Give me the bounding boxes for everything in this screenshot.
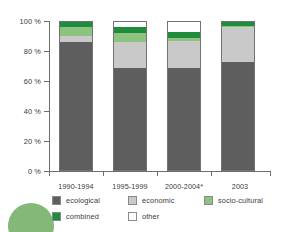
legend-swatch-socio-cultural bbox=[204, 196, 213, 205]
legend-swatch-ecological bbox=[52, 196, 61, 205]
legend-label-other: other bbox=[142, 212, 159, 221]
legend-label-ecological: ecological bbox=[66, 196, 100, 205]
plot-area: 100 % 80 % 60 % 40 % 20 % 0 % bbox=[0, 12, 281, 180]
legend-label-combined: combined bbox=[66, 212, 99, 221]
chart-legend: ecological economic socio-cultural combi… bbox=[52, 196, 280, 226]
x-tick-mark-2 bbox=[157, 172, 158, 176]
legend-item-socio-cultural[interactable]: socio-cultural bbox=[204, 196, 263, 205]
x-tick-mark-4 bbox=[270, 172, 271, 176]
x-tick-mark-0 bbox=[49, 172, 50, 176]
legend-item-combined[interactable]: combined bbox=[52, 212, 99, 221]
legend-item-economic[interactable]: economic bbox=[128, 196, 174, 205]
legend-item-other[interactable]: other bbox=[128, 212, 159, 221]
bar-segment-ecological bbox=[167, 68, 201, 172]
x-axis-label-1: 1995-1999 bbox=[112, 182, 147, 191]
bar-1990-1994[interactable] bbox=[59, 21, 93, 171]
legend-swatch-combined bbox=[52, 212, 61, 221]
bar-segment-ecological bbox=[221, 62, 255, 172]
bar-segment-economic bbox=[221, 27, 255, 62]
bar-segment-other bbox=[167, 21, 201, 32]
stacked-bar-chart-figure: 100 % 80 % 60 % 40 % 20 % 0 % bbox=[0, 0, 281, 232]
legend-label-socio-cultural: socio-cultural bbox=[218, 196, 263, 205]
bar-2000-2004[interactable] bbox=[167, 21, 201, 171]
bar-1995-1999[interactable] bbox=[113, 21, 147, 171]
decorative-green-circle bbox=[8, 203, 54, 232]
bar-segment-ecological bbox=[59, 42, 93, 171]
legend-item-ecological[interactable]: ecological bbox=[52, 196, 100, 205]
bar-segment-ecological bbox=[113, 68, 147, 172]
bar-2003[interactable] bbox=[221, 21, 255, 171]
bar-segment-socio-cultural bbox=[113, 33, 147, 42]
bar-segment-socio-cultural bbox=[59, 27, 93, 36]
x-axis-label-3: 2003 bbox=[232, 182, 248, 191]
x-axis-label-2: 2000-2004* bbox=[165, 182, 203, 191]
bar-segment-economic bbox=[113, 42, 147, 68]
legend-swatch-economic bbox=[128, 196, 137, 205]
x-tick-mark-1 bbox=[103, 172, 104, 176]
bars-layer bbox=[0, 12, 281, 172]
x-axis-label-0: 1990-1994 bbox=[58, 182, 93, 191]
legend-swatch-other bbox=[128, 212, 137, 221]
legend-label-economic: economic bbox=[142, 196, 174, 205]
bar-segment-economic bbox=[167, 41, 201, 68]
x-tick-mark-3 bbox=[211, 172, 212, 176]
x-axis-labels: 1990-1994 1995-1999 2000-2004* 2003 bbox=[0, 182, 281, 194]
